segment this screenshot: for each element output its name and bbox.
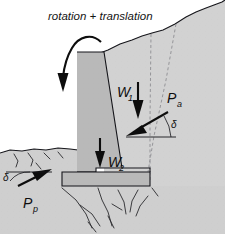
retaining-wall-figure: rotation + translation W 1 W 2 P a P p xyxy=(0,0,225,234)
pa-subscript: a xyxy=(177,99,182,109)
delta-label-right: δ xyxy=(171,119,177,130)
w1-subscript: 1 xyxy=(128,93,133,103)
pp-symbol: P xyxy=(23,195,33,211)
pa-symbol: P xyxy=(167,90,177,106)
w2-subscript: 2 xyxy=(118,163,124,173)
delta-label-left: δ xyxy=(3,172,9,183)
pp-subscript: p xyxy=(32,204,38,214)
figure-title: rotation + translation xyxy=(48,10,153,22)
figure-canvas: rotation + translation W 1 W 2 P a P p xyxy=(0,0,225,234)
